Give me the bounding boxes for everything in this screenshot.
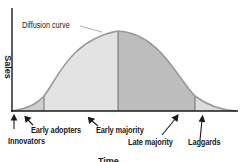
region-early-majority — [44, 0, 118, 111]
label-innovators: Innovators — [8, 136, 45, 146]
region-laggards — [195, 0, 240, 111]
region-late-majority — [118, 0, 195, 111]
region-early-adopters — [15, 0, 44, 111]
label-early-majority: Early majority — [96, 125, 144, 135]
label-laggards: Laggards — [188, 137, 221, 147]
label-early-adopters: Early adopters — [31, 125, 81, 135]
callout-leader — [80, 26, 102, 32]
x-axis-label: Time — [98, 156, 119, 162]
diffusion-curve-label: Diffusion curve — [22, 20, 70, 30]
label-late-majority: Late majority — [128, 137, 173, 147]
y-axis-label: Sales — [3, 55, 13, 79]
